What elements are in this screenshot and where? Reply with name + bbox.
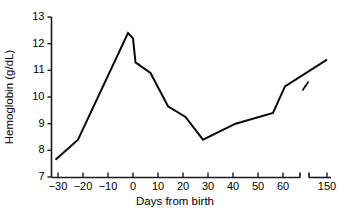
y-tick-label-7: 7 bbox=[38, 170, 44, 182]
chart-canvas: 78910111213 −30−20−100102030405060150 Da… bbox=[0, 0, 340, 221]
hemoglobin-data-line bbox=[56, 33, 328, 160]
hemoglobin-line-chart: 78910111213 −30−20−100102030405060150 Da… bbox=[0, 0, 340, 221]
y-tick-label-11: 11 bbox=[33, 63, 44, 75]
x-tick-label-150: 150 bbox=[318, 180, 336, 192]
y-axis-tick-labels: 78910111213 bbox=[32, 10, 44, 182]
x-tick-label-0: 0 bbox=[130, 180, 136, 192]
x-axis-title: Days from birth bbox=[136, 195, 214, 207]
x-axis-tick-labels: −30−20−100102030405060150 bbox=[49, 180, 337, 192]
x-tick-label-−20: −20 bbox=[74, 180, 93, 192]
y-tick-label-8: 8 bbox=[38, 143, 44, 155]
x-tick-label-−10: −10 bbox=[99, 180, 118, 192]
x-tick-label-−30: −30 bbox=[49, 180, 68, 192]
x-tick-label-40: 40 bbox=[227, 180, 239, 192]
y-tick-label-10: 10 bbox=[32, 90, 44, 102]
y-tick-label-13: 13 bbox=[32, 10, 44, 22]
x-tick-label-30: 30 bbox=[202, 180, 214, 192]
y-tick-label-9: 9 bbox=[38, 117, 44, 129]
x-tick-label-10: 10 bbox=[152, 180, 164, 192]
x-tick-label-20: 20 bbox=[177, 180, 189, 192]
y-axis-title: Hemoglobin (g/dL) bbox=[3, 50, 15, 145]
x-tick-label-60: 60 bbox=[277, 180, 289, 192]
data-series-layer bbox=[56, 33, 328, 160]
y-tick-label-12: 12 bbox=[32, 37, 44, 49]
x-tick-label-50: 50 bbox=[252, 180, 264, 192]
